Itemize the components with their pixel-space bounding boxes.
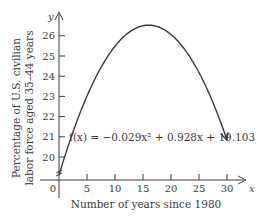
function-curve bbox=[59, 25, 227, 175]
x-tick-label: 5 bbox=[84, 183, 90, 194]
x-tick-label: 20 bbox=[165, 183, 178, 194]
x-axis-symbol: x bbox=[249, 183, 255, 194]
y-axis-title-line-2: labor force aged 35–44 years bbox=[23, 30, 35, 185]
y-axis-title: Percentage of U.S. civilian labor force … bbox=[10, 30, 35, 185]
y-tick-label: 26 bbox=[42, 30, 55, 41]
y-axis-symbol: y bbox=[47, 11, 54, 22]
y-tick-label: 24 bbox=[42, 71, 55, 82]
y-tick-label: 25 bbox=[42, 51, 55, 62]
x-ticks: 051015202530 bbox=[50, 174, 234, 194]
x-tick-label: 0 bbox=[50, 183, 56, 194]
function-label: f(x) = −0.029x² + 0.928x + 19.103 bbox=[69, 131, 255, 143]
y-tick-label: 23 bbox=[42, 91, 55, 102]
y-tick-label: 22 bbox=[42, 111, 55, 122]
x-tick-label: 10 bbox=[109, 183, 122, 194]
x-tick-label: 15 bbox=[137, 183, 150, 194]
y-tick-label: 20 bbox=[42, 152, 55, 163]
x-axis-title: Number of years since 1980 bbox=[71, 198, 222, 210]
chart: Percentage of U.S. civilian labor force … bbox=[0, 0, 258, 217]
y-axis-title-line-1: Percentage of U.S. civilian bbox=[10, 38, 22, 178]
y-tick-label: 21 bbox=[42, 131, 55, 142]
x-tick-label: 30 bbox=[221, 183, 234, 194]
x-tick-label: 25 bbox=[193, 183, 206, 194]
y-ticks: 20212223242526 bbox=[42, 30, 65, 162]
